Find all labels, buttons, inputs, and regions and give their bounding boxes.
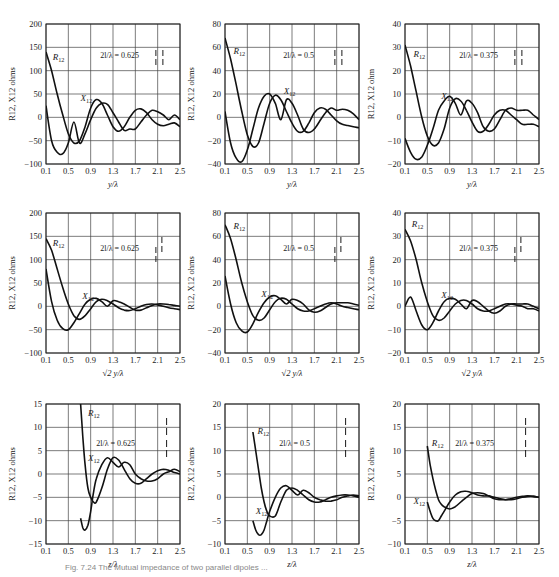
x-tick-label: 1.7 — [309, 546, 320, 556]
svg-text:X12: X12 — [260, 289, 273, 300]
y-tick-label: 60 — [213, 42, 222, 52]
x-tick-label: 2.1 — [511, 355, 522, 365]
x-tick-label: 2.5 — [534, 166, 545, 176]
grid-lines — [405, 24, 539, 164]
svg-text:X12: X12 — [283, 86, 296, 97]
parameter-annotation: 2l/λ = 0.375 — [455, 439, 494, 448]
dipole-arrangement-icon — [156, 50, 163, 65]
x-tick-label: 2.1 — [331, 166, 342, 176]
x-tick-label: 2.5 — [354, 355, 365, 365]
x-tick-label: 0.1 — [41, 546, 52, 556]
plots-canvas: 0.10.50.91.31.72.12.5−100−50050100150200… — [0, 0, 559, 577]
svg-text:R12: R12 — [256, 426, 269, 437]
y-tick-label: 20 — [213, 89, 222, 99]
x-tick-label: 0.1 — [220, 166, 231, 176]
y-tick-label: 200 — [29, 19, 42, 29]
x-tick-label: 0.1 — [220, 355, 231, 365]
parameter-annotation: 2l/λ = 0.625 — [100, 51, 139, 60]
x-tick-label: 1.7 — [130, 355, 141, 365]
y-tick-label: 30 — [393, 231, 402, 241]
chart-panel-r3c2: 0.10.50.91.31.72.12.5−10−505101520z/λR12… — [186, 399, 364, 569]
y-tick-label: 0 — [38, 112, 42, 122]
x-tick-label: 0.1 — [41, 166, 52, 176]
y-tick-label: −5 — [392, 516, 401, 526]
svg-text:R12: R12 — [232, 221, 245, 232]
chart-panel-r2c2: 0.10.50.91.31.72.12.5−40−20020406080√2 y… — [186, 208, 364, 378]
chart-panel-r2c3: 0.10.50.91.31.72.12.5−20−10010203040√2 y… — [366, 208, 544, 378]
y-tick-label: 10 — [393, 278, 402, 288]
y-tick-label: 15 — [34, 399, 43, 409]
parameter-annotation: 2l/λ = 0.5 — [283, 244, 314, 253]
x-tick-label: 2.5 — [534, 355, 545, 365]
chart-panel-r3c3: 0.10.50.91.31.72.12.5−10−505101520z/λR12… — [366, 399, 544, 569]
grid-lines — [225, 404, 359, 544]
x-axis-label: z/λ — [466, 559, 477, 569]
x-tick-label: 1.3 — [108, 355, 119, 365]
y-tick-label: 0 — [38, 301, 42, 311]
x-tick-label: 1.3 — [287, 166, 298, 176]
parameter-annotation: 2l/λ = 0.375 — [459, 51, 498, 60]
grid-lines — [46, 213, 180, 353]
y-tick-label: −40 — [208, 348, 221, 358]
y-tick-label: −5 — [212, 516, 221, 526]
y-tick-label: 40 — [393, 208, 402, 218]
y-tick-label: 0 — [217, 112, 221, 122]
parameter-annotation: 2l/λ = 0.625 — [96, 439, 135, 448]
svg-text:X12: X12 — [81, 291, 94, 302]
x-tick-label: 1.3 — [467, 355, 478, 365]
figure-grid: 0.10.50.91.31.72.12.5−100−50050100150200… — [0, 0, 559, 577]
x-tick-label: 1.3 — [467, 166, 478, 176]
x-tick-label: 0.9 — [85, 355, 96, 365]
x-tick-label: 1.3 — [108, 166, 119, 176]
svg-text:R12: R12 — [412, 49, 425, 60]
chart-panel-r2c1: 0.10.50.91.31.72.12.5−100−50050100150200… — [7, 208, 185, 378]
y-tick-label: 40 — [213, 66, 222, 76]
chart-panel-r1c1: 0.10.50.91.31.72.12.5−100−50050100150200… — [7, 19, 185, 189]
svg-text:R12: R12 — [411, 219, 424, 230]
y-tick-label: −100 — [24, 159, 42, 169]
x-tick-label: 1.3 — [467, 546, 478, 556]
y-tick-label: 20 — [393, 66, 402, 76]
y-tick-label: −20 — [388, 159, 401, 169]
y-tick-label: 5 — [397, 469, 401, 479]
x-tick-label: 0.9 — [444, 546, 455, 556]
x-tick-label: 0.5 — [422, 546, 433, 556]
x-tick-label: 0.9 — [264, 166, 275, 176]
y-tick-label: −20 — [208, 136, 221, 146]
dipole-arrangement-icon — [515, 50, 522, 65]
svg-text:R12: R12 — [431, 438, 444, 449]
y-axis-label: R12, X12 ohm — [366, 68, 376, 119]
y-tick-label: 30 — [393, 42, 402, 52]
y-tick-label: 5 — [217, 469, 221, 479]
y-tick-label: −5 — [33, 492, 42, 502]
x-tick-label: 2.5 — [175, 546, 186, 556]
dipole-arrangement-icon — [335, 237, 341, 262]
grid-lines — [46, 404, 180, 544]
y-tick-label: −10 — [29, 516, 42, 526]
x-axis-label: y/λ — [466, 179, 477, 189]
x-tick-label: 1.7 — [489, 355, 500, 365]
x-tick-label: 0.1 — [41, 355, 52, 365]
svg-text:X12: X12 — [440, 91, 453, 102]
y-axis-label: R12, X12 ohms — [186, 67, 196, 121]
parameter-annotation: 2l/λ = 0.375 — [459, 244, 498, 253]
y-tick-label: −50 — [29, 136, 42, 146]
y-tick-label: 20 — [393, 399, 402, 409]
y-tick-label: 20 — [393, 255, 402, 265]
grid-lines — [46, 24, 180, 164]
x-tick-label: 2.5 — [175, 166, 186, 176]
x-tick-label: 0.1 — [400, 355, 411, 365]
x-tick-label: 0.1 — [220, 546, 231, 556]
y-tick-label: 150 — [29, 42, 42, 52]
x-tick-label: 0.9 — [264, 546, 275, 556]
x-tick-label: 2.1 — [511, 546, 522, 556]
chart-panel-r1c3: 0.10.50.91.31.72.12.5−20−10010203040y/λR… — [366, 19, 544, 189]
y-tick-label: −50 — [29, 325, 42, 335]
x-axis-label: y/λ — [286, 179, 297, 189]
y-tick-label: −20 — [388, 348, 401, 358]
y-axis-label: R12, X12 ohms — [186, 447, 196, 501]
y-tick-label: −40 — [208, 159, 221, 169]
series-r12 — [427, 446, 539, 509]
svg-text:X12: X12 — [87, 453, 100, 464]
y-axis-label: R12, X12 ohms — [366, 256, 376, 310]
